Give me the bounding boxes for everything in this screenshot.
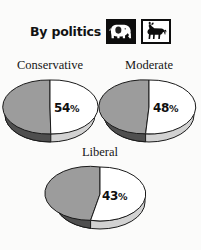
- pie-chart-moderate: Moderate 48%: [101, 58, 197, 146]
- pie-title-conservative: Conservative: [2, 58, 98, 73]
- pie-slice-remainder: [45, 166, 100, 220]
- pie-chart-liberal: Liberal 43%: [52, 145, 148, 233]
- figure-header: By politics: [0, 16, 201, 46]
- pie-value-moderate: 48%: [153, 101, 178, 115]
- pie-value-conservative: 54%: [54, 101, 79, 115]
- by-politics-figure: By politics: [0, 0, 201, 250]
- pie-canvas-moderate: 48%: [101, 74, 197, 146]
- pie-value-number: 54: [54, 101, 70, 115]
- pie-title-liberal: Liberal: [52, 145, 148, 160]
- percent-sign: %: [118, 191, 127, 202]
- pie-title-moderate: Moderate: [101, 58, 197, 73]
- pie-chart-conservative: Conservative 54%: [2, 58, 98, 146]
- pie-value-number: 43: [102, 189, 118, 203]
- democrat-donkey-icon: [141, 19, 171, 44]
- percent-sign: %: [169, 103, 178, 114]
- pie-canvas-liberal: 43%: [52, 161, 148, 233]
- pie-value-number: 48: [153, 101, 169, 115]
- page-title: By politics: [30, 24, 101, 39]
- republican-elephant-icon: [106, 19, 136, 44]
- pie-value-liberal: 43%: [102, 189, 127, 203]
- pie-slice-remainder: [99, 80, 149, 134]
- pie-canvas-conservative: 54%: [2, 74, 98, 146]
- percent-sign: %: [70, 103, 79, 114]
